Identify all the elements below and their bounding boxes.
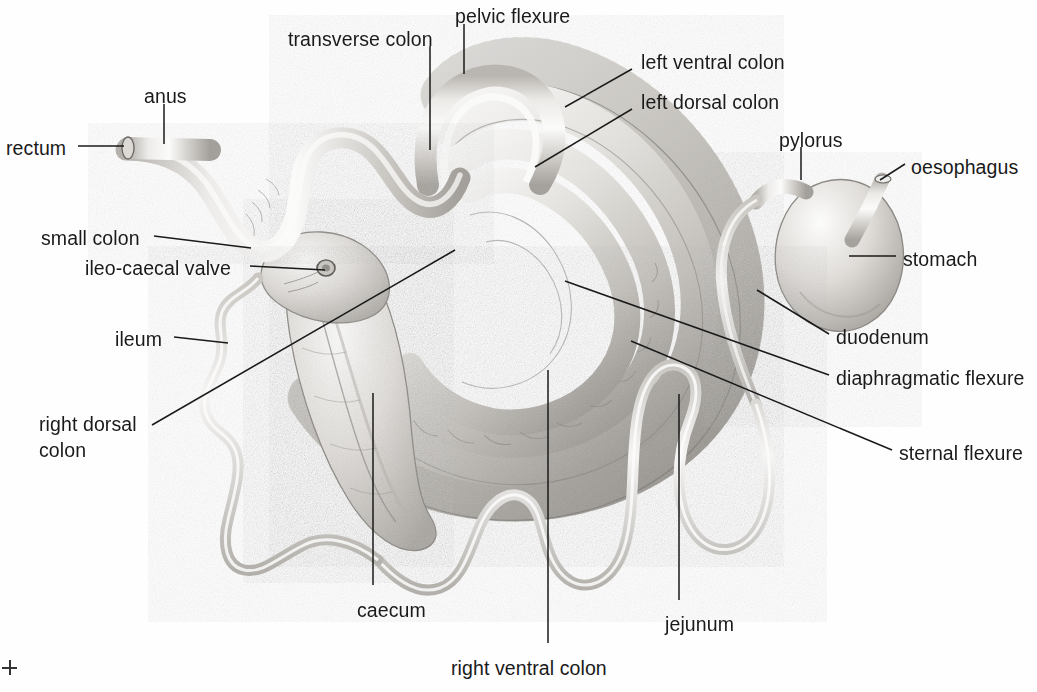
label-right-ventral-colon: right ventral colon (451, 657, 607, 680)
label-ileum: ileum (115, 328, 162, 351)
leader-line-oesophagus (880, 164, 905, 180)
figure-page: rectumanustransverse colonpelvic flexure… (0, 0, 1037, 692)
label-transverse-colon: transverse colon (288, 28, 433, 51)
label-rectum: rectum (6, 137, 66, 160)
anus-shape (122, 137, 134, 159)
right-ventral-colon-shape (410, 180, 627, 422)
label-stomach: stomach (903, 248, 977, 271)
label-ileo-caecal-valve: ileo-caecal valve (85, 257, 231, 280)
label-left-dorsal-colon: left dorsal colon (641, 91, 779, 114)
label-left-ventral-colon: left ventral colon (641, 51, 785, 74)
small-colon-group (122, 135, 460, 252)
label-jejunum: jejunum (665, 613, 734, 636)
label-anus: anus (144, 85, 187, 108)
label-duodenum: duodenum (836, 326, 929, 349)
label-caecum: caecum (357, 599, 426, 622)
label-sternal-flexure: sternal flexure (899, 442, 1023, 465)
label-oesophagus: oesophagus (911, 156, 1018, 179)
label-diaphragmatic-flexure: diaphragmatic flexure (836, 367, 1025, 390)
label-right-dorsal-colon: right dorsal colon (39, 411, 137, 463)
label-pelvic-flexure: pelvic flexure (455, 5, 570, 28)
crop-registration-mark (2, 660, 17, 675)
label-pylorus: pylorus (779, 129, 843, 152)
rectum-shape (128, 148, 210, 150)
label-small-colon: small colon (41, 227, 140, 250)
